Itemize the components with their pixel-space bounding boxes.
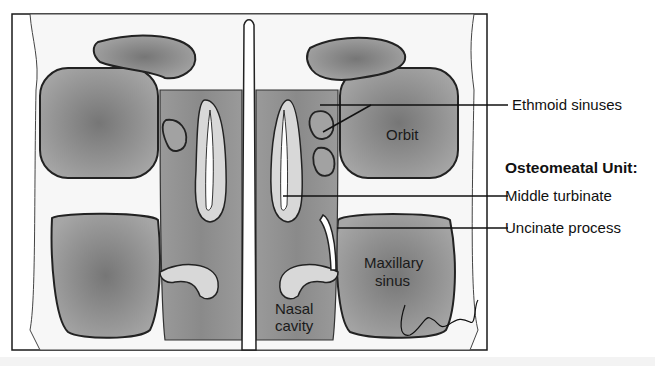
label-maxillary-line1: Maxillary bbox=[364, 255, 423, 272]
left-orbit bbox=[40, 68, 158, 178]
left-maxillary-sinus bbox=[52, 214, 160, 338]
label-orbit: Orbit bbox=[386, 127, 419, 144]
section-heading-osteomeatal-unit: Osteomeatal Unit: bbox=[505, 160, 638, 176]
label-uncinate-process: Uncinate process bbox=[505, 220, 621, 235]
right-orbit bbox=[340, 68, 458, 178]
label-nasal-line2: cavity bbox=[275, 318, 313, 335]
ethmoid-cell-2 bbox=[313, 148, 334, 176]
label-ethmoid-sinuses: Ethmoid sinuses bbox=[512, 97, 622, 112]
sinus-diagram bbox=[0, 0, 655, 366]
label-nasal-line1: Nasal bbox=[275, 301, 313, 318]
ethmoid-cell-1 bbox=[309, 111, 333, 139]
label-middle-turbinate: Middle turbinate bbox=[505, 188, 612, 203]
footer-strip bbox=[0, 357, 655, 366]
nasal-septum bbox=[242, 20, 256, 350]
label-maxillary-line2: sinus bbox=[375, 273, 410, 290]
